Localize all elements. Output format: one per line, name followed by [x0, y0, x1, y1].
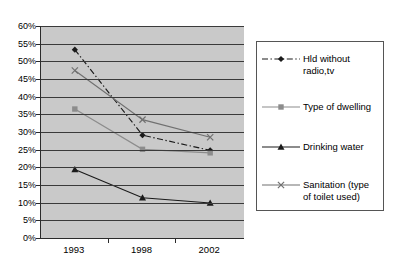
gridline — [41, 132, 244, 133]
legend-label: Hld withoutradio,tv — [301, 53, 350, 76]
legend-label-line-1: Type of dwelling — [303, 101, 371, 113]
gridline — [41, 185, 244, 186]
data-point-marker — [72, 106, 77, 111]
data-point-marker — [72, 67, 78, 73]
legend-key-icon — [261, 178, 301, 192]
gridline — [41, 203, 244, 204]
legend-entry-2[interactable]: Type of dwelling — [257, 100, 385, 114]
data-point-marker — [139, 132, 145, 138]
legend-label-line-2: of toilet used) — [303, 191, 369, 203]
x-axis-tickmark — [108, 239, 109, 243]
legend-entry-1[interactable]: Hld withoutradio,tv — [257, 52, 385, 75]
gridline — [41, 220, 244, 221]
legend-key-icon — [261, 100, 301, 114]
legend-label: Sanitation (typeof toilet used) — [301, 179, 369, 202]
legend-label-line-1: Sanitation (type — [303, 179, 369, 191]
gridline — [41, 97, 244, 98]
legend-label: Drinking water — [301, 141, 364, 153]
gridline — [41, 150, 244, 151]
x-axis-tick-label: 2002 — [199, 244, 220, 255]
x-axis-tickmark — [175, 239, 176, 243]
legend-entry-4[interactable]: Sanitation (typeof toilet used) — [257, 178, 385, 201]
legend-key-icon — [261, 52, 301, 66]
x-axis-tick-label: 1993 — [63, 244, 84, 255]
series-line — [75, 71, 210, 138]
gridline — [41, 61, 244, 62]
legend-entry-3[interactable]: Drinking water — [257, 140, 385, 154]
series-1 — [72, 47, 214, 154]
legend-label-line-2: radio,tv — [303, 65, 350, 77]
gridline — [41, 167, 244, 168]
plot-area — [40, 26, 244, 239]
gridline — [41, 79, 244, 80]
x-axis-tick-label: 1998 — [131, 244, 152, 255]
data-point-marker — [207, 150, 212, 155]
y-axis-tickmarks — [0, 26, 40, 238]
gridline — [41, 114, 244, 115]
x-axis-labels: 199319982002 — [40, 244, 243, 258]
legend-key-icon — [261, 140, 301, 154]
chart-legend: Hld withoutradio,tvType of dwellingDrink… — [256, 41, 384, 211]
gridline — [41, 44, 244, 45]
legend-label-line-1: Drinking water — [303, 141, 364, 153]
legend-label-line-1: Hld without — [303, 53, 350, 65]
gridline — [41, 26, 244, 27]
legend-label: Type of dwelling — [301, 101, 371, 113]
chart-figure: 60%55%50%45%40%35%30%25%20%15%10%5%0% 19… — [0, 0, 398, 268]
